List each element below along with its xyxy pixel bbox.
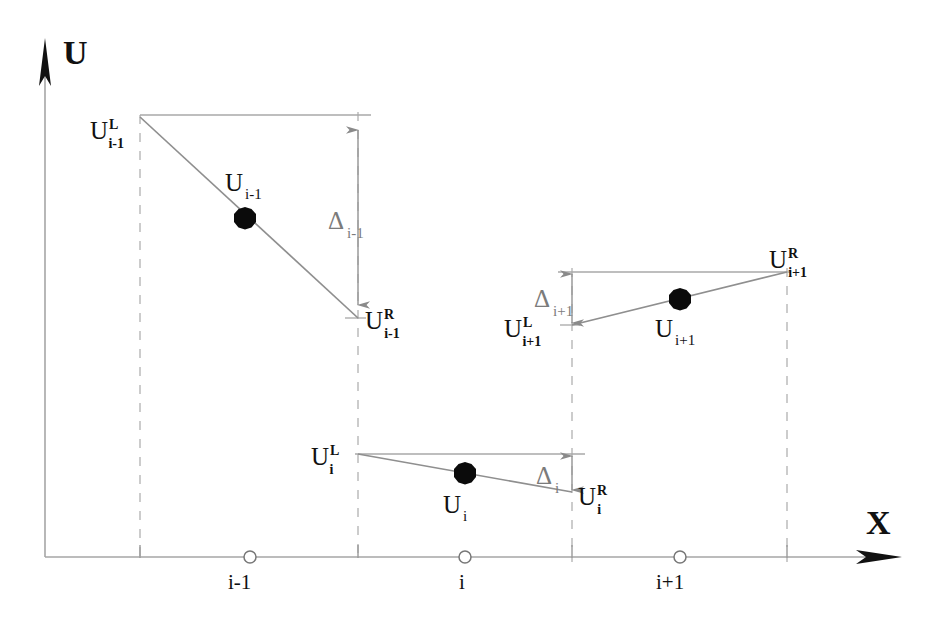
- label-delta-i-base: Δ: [536, 462, 552, 489]
- label-u-left-ip1: ULi+1: [504, 316, 541, 341]
- label-u-right-i-sup: R: [597, 483, 607, 498]
- label-u-left-im1-base: U: [90, 117, 108, 144]
- axis-center-marker-i: [459, 551, 471, 563]
- label-u-right-im1: URi-1: [365, 308, 400, 333]
- label-delta-ip1-sub: i+1: [553, 303, 573, 319]
- axis-center-marker-im1: [244, 551, 256, 563]
- label-u-left-im1-sup: L: [109, 117, 118, 132]
- label-u-center-ip1: Ui+1: [655, 316, 695, 341]
- label-u-left-im1-sub: i-1: [108, 136, 124, 151]
- label-delta-im1-sub: i-1: [347, 225, 364, 241]
- label-u-center-im1-base: U: [225, 169, 243, 196]
- label-u-right-ip1: URi+1: [769, 247, 807, 272]
- label-delta-ip1-base: Δ: [534, 285, 550, 312]
- label-u-right-i-sub: i: [597, 502, 601, 517]
- label-u-center-i-sub: i: [463, 508, 467, 524]
- label-u-left-ip1-base: U: [504, 315, 522, 342]
- x-tick-label-ip1: i+1: [656, 572, 684, 593]
- x-axis-label: X: [866, 506, 891, 540]
- diagram-canvas: [0, 0, 940, 632]
- label-delta-i: Δi: [536, 463, 559, 488]
- label-delta-im1-base: Δ: [328, 207, 344, 234]
- label-u-left-i-sup: L: [330, 443, 339, 458]
- label-delta-ip1: Δi+1: [534, 286, 573, 311]
- label-u-left-ip1-sub: i+1: [522, 334, 541, 349]
- label-u-right-ip1-sub: i+1: [788, 265, 807, 280]
- label-u-right-im1-sup: R: [384, 307, 394, 322]
- x-tick-label-im1: i-1: [228, 572, 251, 593]
- axis-group: [39, 38, 902, 564]
- label-u-center-i-base: U: [443, 491, 461, 518]
- label-u-left-i-sub: i: [329, 462, 333, 477]
- label-u-right-im1-sub: i-1: [384, 326, 400, 341]
- label-u-right-i: URi: [578, 484, 601, 509]
- label-u-left-im1: ULi-1: [90, 118, 124, 143]
- label-u-right-i-base: U: [578, 483, 596, 510]
- label-u-left-i-base: U: [311, 443, 329, 470]
- cell-i-center-marker: [454, 462, 476, 485]
- label-u-left-i: ULi: [311, 444, 333, 469]
- label-u-right-ip1-base: U: [769, 246, 787, 273]
- cell-im1-center-marker: [234, 207, 256, 230]
- label-u-center-ip1-sub: i+1: [675, 332, 695, 348]
- label-u-center-ip1-base: U: [655, 315, 673, 342]
- label-u-center-i: Ui: [443, 492, 467, 517]
- label-u-center-im1-sub: i-1: [245, 186, 262, 202]
- y-axis-label: U: [63, 36, 88, 70]
- label-delta-i-sub: i: [555, 480, 559, 496]
- label-u-center-im1: Ui-1: [225, 170, 262, 195]
- label-u-right-ip1-sup: R: [788, 246, 798, 261]
- label-delta-im1: Δi-1: [328, 208, 364, 233]
- label-u-left-ip1-sup: L: [523, 315, 532, 330]
- x-tick-label-i: i: [459, 572, 465, 593]
- cell-ip1-center-marker: [669, 288, 691, 311]
- figure-root: U X i-1 i i+1 ULi-1 Ui-1 URi-1 Δi-1 ULi …: [0, 0, 940, 632]
- label-u-right-im1-base: U: [365, 307, 383, 334]
- axis-center-marker-ip1: [674, 551, 686, 563]
